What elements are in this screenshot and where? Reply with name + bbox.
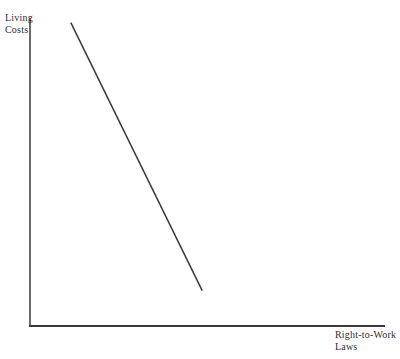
y-axis-label: Living Costs <box>5 12 33 35</box>
trend-line <box>71 23 202 291</box>
x-axis-label: Right-to-Work Laws <box>335 329 396 352</box>
plot-area <box>0 0 400 359</box>
graph-figure: Living Costs Right-to-Work Laws <box>0 0 400 359</box>
